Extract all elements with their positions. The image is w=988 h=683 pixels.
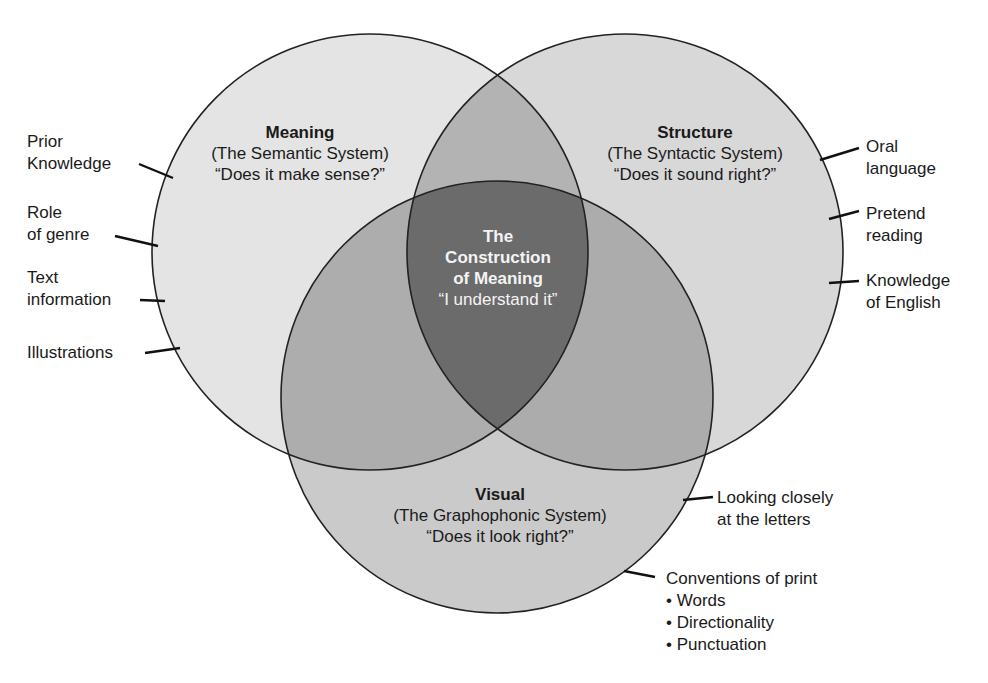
center-line1: The	[398, 226, 598, 247]
center-caption: The Construction of Meaning “I understan…	[398, 226, 598, 310]
label-illustrations: Illustrations	[27, 342, 113, 364]
venn-diagram	[0, 0, 988, 683]
visual-title: Visual	[365, 484, 635, 505]
meaning-caption: Meaning (The Semantic System) “Does it m…	[185, 122, 415, 185]
bullet-punctuation: Punctuation	[666, 634, 817, 656]
meaning-subtitle: (The Semantic System)	[185, 143, 415, 164]
label-role-of-genre: Role of genre	[27, 202, 89, 246]
structure-subtitle: (The Syntactic System)	[575, 143, 815, 164]
meaning-title: Meaning	[185, 122, 415, 143]
label-knowledge-of-english: Knowledge of English	[866, 270, 950, 314]
structure-title: Structure	[575, 122, 815, 143]
structure-caption: Structure (The Syntactic System) “Does i…	[575, 122, 815, 185]
label-conventions-of-print: Conventions of print Words Directionalit…	[666, 568, 817, 656]
label-text-information: Text information	[27, 267, 111, 311]
bullet-directionality: Directionality	[666, 612, 817, 634]
center-line3: of Meaning	[398, 268, 598, 289]
meaning-question: “Does it make sense?”	[185, 164, 415, 185]
structure-question: “Does it sound right?”	[575, 164, 815, 185]
visual-caption: Visual (The Graphophonic System) “Does i…	[365, 484, 635, 547]
label-pretend-reading: Pretend reading	[866, 203, 926, 247]
label-prior-knowledge: Prior Knowledge	[27, 131, 111, 175]
center-quote: “I understand it”	[398, 289, 598, 310]
visual-question: “Does it look right?”	[365, 526, 635, 547]
label-looking-closely: Looking closely at the letters	[717, 487, 833, 531]
visual-subtitle: (The Graphophonic System)	[365, 505, 635, 526]
bullet-words: Words	[666, 590, 817, 612]
label-oral-language: Oral language	[866, 136, 936, 180]
center-line2: Construction	[398, 247, 598, 268]
